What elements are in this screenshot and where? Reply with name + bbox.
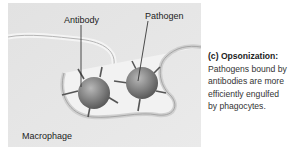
opsonization-diagram: Antibody Pathogen Macrophage — [8, 3, 201, 147]
caption-line-1: Pathogens bound by — [208, 63, 294, 75]
diagram-illustration — [8, 3, 201, 147]
pathogen-label: Pathogen — [145, 11, 184, 21]
caption-line-3: efficiently engulfed — [208, 88, 294, 100]
figure-caption: (c) Opsonization: Pathogens bound by ant… — [208, 50, 294, 112]
macrophage-label: Macrophage — [22, 131, 72, 141]
caption-line-4: by phagocytes. — [208, 100, 294, 112]
caption-line-2: antibodies are more — [208, 75, 294, 87]
caption-title: (c) Opsonization: — [208, 50, 294, 62]
antibody-label: Antibody — [64, 15, 99, 25]
